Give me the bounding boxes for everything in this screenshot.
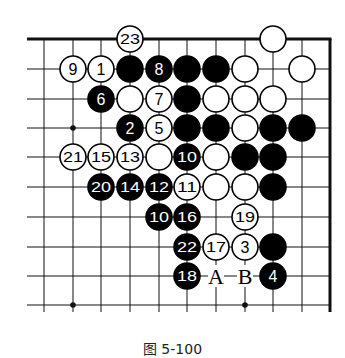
move-number: 20 — [91, 179, 111, 195]
move-number: 12 — [149, 179, 169, 195]
black-stone — [174, 56, 200, 82]
move-number: 13 — [120, 149, 140, 165]
white-stone: 9 — [60, 56, 86, 82]
black-stone: 16 — [174, 204, 200, 230]
move-number: 2 — [126, 120, 135, 137]
black-stone — [260, 144, 286, 170]
black-stone: 4 — [260, 263, 286, 289]
move-number: 7 — [155, 91, 164, 108]
white-stone: 1 — [88, 56, 114, 82]
letter-mark-a: A — [208, 264, 224, 289]
white-stone: 15 — [88, 144, 114, 170]
star-point — [70, 125, 76, 131]
black-stone — [260, 174, 286, 200]
move-number: 22 — [177, 239, 197, 255]
white-stone — [203, 144, 229, 170]
black-stone: 22 — [174, 234, 200, 260]
letter-mark-b: B — [237, 264, 253, 289]
white-stone — [232, 56, 258, 82]
black-stone: 8 — [146, 56, 172, 82]
black-stone: 20 — [88, 174, 114, 200]
black-stone — [203, 56, 229, 82]
black-stone: 10 — [146, 204, 172, 230]
move-number: 17 — [206, 239, 226, 255]
black-stone: 2 — [117, 115, 143, 141]
black-stone: 12 — [146, 174, 172, 200]
white-stone — [232, 115, 258, 141]
move-number: 8 — [155, 61, 164, 78]
move-number: 23 — [120, 31, 140, 47]
black-stone — [203, 115, 229, 141]
white-stone — [260, 26, 286, 52]
white-stone: 11 — [174, 174, 200, 200]
white-stone: 19 — [232, 204, 258, 230]
move-number: 5 — [155, 120, 164, 137]
black-stone — [289, 115, 315, 141]
white-stone: 21 — [60, 144, 86, 170]
stones: 239186725211513102014121110161922173184 — [60, 26, 315, 289]
black-stone — [260, 115, 286, 141]
move-number: 4 — [269, 268, 278, 285]
black-stone: 10 — [174, 144, 200, 170]
move-number: 19 — [235, 209, 255, 225]
white-stone: 3 — [232, 234, 258, 260]
white-stone: 5 — [146, 115, 172, 141]
white-stone — [203, 174, 229, 200]
white-stone — [117, 86, 143, 112]
white-stone: 13 — [117, 144, 143, 170]
black-stone — [174, 86, 200, 112]
black-stone: 6 — [88, 86, 114, 112]
move-number: 15 — [91, 149, 111, 165]
black-stone: 18 — [174, 263, 200, 289]
move-number: 10 — [149, 209, 169, 225]
star-point — [70, 302, 76, 308]
white-stone: 23 — [117, 26, 143, 52]
move-number: 11 — [177, 179, 197, 195]
white-stone: 17 — [203, 234, 229, 260]
star-point — [242, 302, 248, 308]
move-number: 16 — [177, 209, 197, 225]
svg-text:B: B — [238, 264, 253, 289]
move-number: 18 — [177, 268, 197, 284]
move-number: 10 — [177, 149, 197, 165]
black-stone — [260, 234, 286, 260]
move-number: 14 — [120, 179, 140, 195]
white-stone — [146, 144, 172, 170]
black-stone — [117, 56, 143, 82]
move-number: 21 — [63, 149, 83, 165]
white-stone: 7 — [146, 86, 172, 112]
white-stone — [232, 86, 258, 112]
white-stone — [289, 56, 315, 82]
white-stone — [260, 86, 286, 112]
black-stone: 14 — [117, 174, 143, 200]
black-stone — [174, 115, 200, 141]
move-number: 6 — [97, 91, 106, 108]
move-number: 1 — [97, 61, 106, 78]
svg-text:A: A — [208, 264, 224, 289]
move-number: 9 — [69, 61, 78, 78]
white-stone — [232, 174, 258, 200]
black-stone — [232, 144, 258, 170]
move-number: 3 — [241, 239, 250, 256]
figure-caption: 图 5-100 — [0, 338, 345, 358]
white-stone — [203, 86, 229, 112]
